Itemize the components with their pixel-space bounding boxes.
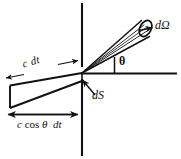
solid-angle-label: dΩ (155, 19, 170, 31)
projection-cos: cos (25, 118, 40, 130)
radiation-geometry-figure: dΩ dS θ c dt c cos θ dt (0, 0, 181, 159)
surface-element-label: dS (92, 89, 104, 101)
diagram-canvas (0, 0, 181, 159)
theta-angle-label: θ (119, 55, 125, 67)
projection-length-label: c cos θ dt (17, 119, 62, 130)
radiation-slab (10, 73, 82, 108)
projection-suffix: dt (53, 118, 62, 130)
